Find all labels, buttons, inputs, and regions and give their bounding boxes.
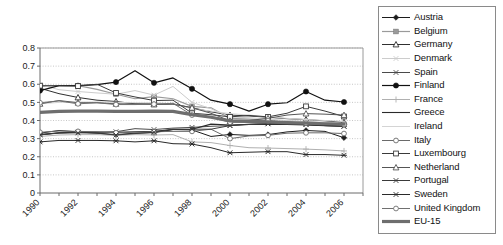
legend-item-finland[interactable]: Finland [379,78,495,92]
marker-open-circle [394,138,399,143]
y-tick-label: 0.1 [22,170,35,180]
legend-item-label: Italy [414,134,431,145]
legend-item-france[interactable]: France [379,92,495,106]
legend-marker-icon [381,37,411,50]
marker-open-circle [114,102,119,107]
y-tick-label: 0.6 [22,79,35,89]
x-tick-label: 2002 [248,197,269,218]
x-tick-label: 1992 [58,197,79,218]
marker-open-square [394,151,399,156]
y-tick-label: 0.7 [22,61,35,71]
marker-filled-circle [341,99,346,104]
marker-filled-circle [37,88,42,93]
legend-item-luxembourg[interactable]: Luxembourg [379,146,495,160]
marker-asterisk [113,138,119,143]
x-tick-label: 2004 [286,197,307,218]
legend-marker-icon [381,92,411,105]
chart-legend: AustriaBelgiumGermanyDenmarkSpainFinland… [378,6,496,234]
marker-filled-circle [227,102,232,107]
marker-open-circle [304,130,309,135]
marker-open-circle [266,133,271,138]
legend-item-label: Sweden [414,188,448,199]
marker-open-square [304,104,309,109]
legend-item-label: Belgium [414,25,448,36]
legend-item-greece[interactable]: Greece [379,105,495,119]
legend-item-belgium[interactable]: Belgium [379,24,495,38]
legend-marker-icon [381,51,411,64]
legend-item-denmark[interactable]: Denmark [379,51,495,65]
legend-marker-icon [381,10,411,23]
marker-open-circle [152,102,157,107]
marker-open-circle [76,101,81,106]
legend-marker-icon [381,119,411,132]
marker-plus [227,143,233,149]
y-tick-label: 0.8 [22,43,35,53]
y-tick-label: 0.4 [22,116,35,126]
marker-plus [303,146,309,152]
legend-marker-icon [381,24,411,37]
legend-item-label: Denmark [414,52,452,63]
legend-item-austria[interactable]: Austria [379,10,495,24]
legend-marker-icon [381,160,411,173]
x-tick-label: 1990 [20,197,41,218]
marker-open-circle [228,136,233,141]
legend-item-label: Luxembourg [414,147,466,158]
legend-marker-icon [381,133,411,146]
legend-item-sweden[interactable]: Sweden [379,187,495,201]
legend-item-label: Austria [414,11,443,22]
legend-marker-icon [381,78,411,91]
line-chart-plot: 00.10.20.30.40.50.60.70.8199019921994199… [0,0,378,245]
legend-item-label: EU-15 [414,215,440,226]
marker-open-circle [394,206,399,211]
x-tick-label: 1996 [134,197,155,218]
y-tick-label: 0.5 [22,98,35,108]
legend-marker-icon [381,214,411,227]
marker-filled-diamond [393,15,399,21]
x-tick-label: 1994 [96,197,117,218]
y-tick-label: 0.3 [22,134,35,144]
legend-item-label: Germany [414,38,452,49]
legend-item-ireland[interactable]: Ireland [379,119,495,133]
legend-item-label: France [414,93,443,104]
x-tick-label: 2006 [324,197,345,218]
marker-asterisk [151,138,157,143]
marker-open-square [114,91,119,96]
legend-item-label: Spain [414,66,438,77]
x-tick-label: 1998 [172,197,193,218]
legend-item-label: Greece [414,106,445,117]
legend-item-label: Finland [414,79,444,90]
legend-item-label: Portugal [414,174,449,185]
marker-filled-circle [151,80,156,85]
legend-item-united-kingdom[interactable]: United Kingdom [379,200,495,214]
legend-item-label: United Kingdom [414,202,480,213]
marker-open-circle [38,130,43,135]
marker-filled-circle [393,83,398,88]
legend-item-eu-15[interactable]: EU-15 [379,214,495,228]
marker-asterisk [75,138,81,143]
legend-item-spain[interactable]: Spain [379,64,495,78]
marker-open-square [76,84,81,89]
legend-item-portugal[interactable]: Portugal [379,173,495,187]
marker-asterisk [393,192,399,197]
legend-item-netherland[interactable]: Netherland [379,160,495,174]
x-tick-label: 2000 [210,197,231,218]
legend-marker-icon [381,173,411,186]
marker-filled-circle [189,86,194,91]
legend-marker-icon [381,201,411,214]
marker-filled-circle [113,79,118,84]
series-france [37,132,347,154]
legend-item-italy[interactable]: Italy [379,132,495,146]
marker-open-circle [342,131,347,136]
legend-item-label: Ireland [414,120,442,131]
marker-asterisk [303,152,309,157]
y-tick-label: 0.2 [22,152,35,162]
legend-marker-icon [381,105,411,118]
legend-item-germany[interactable]: Germany [379,37,495,51]
marker-plus [393,96,399,102]
y-tick-label: 0 [30,188,35,198]
marker-filled-circle [303,89,308,94]
legend-marker-icon [381,146,411,159]
marker-filled-circle [265,102,270,107]
marker-asterisk [227,150,233,155]
marker-asterisk [393,70,399,75]
